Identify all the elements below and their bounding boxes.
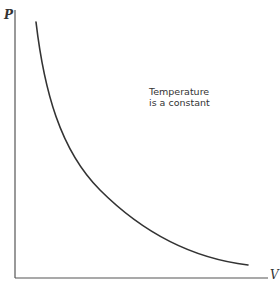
annotation-text: Temperature is a constant	[149, 86, 210, 108]
isotherm-curve	[36, 22, 248, 265]
annotation-line-1: Temperature	[149, 86, 210, 97]
x-axis-label: V	[270, 269, 279, 281]
annotation-line-2: is a constant	[149, 97, 210, 108]
pv-diagram	[0, 0, 280, 288]
y-axis-label: P	[4, 9, 13, 21]
